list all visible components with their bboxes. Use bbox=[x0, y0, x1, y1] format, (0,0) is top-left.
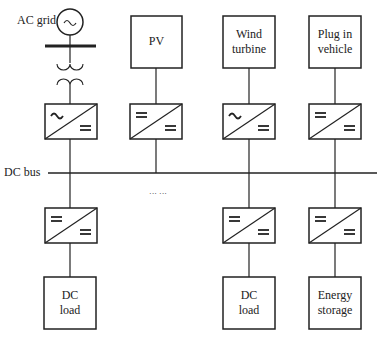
pv-label-line1: PV bbox=[149, 34, 164, 48]
grid-ac-dc-converter-icon bbox=[45, 104, 97, 139]
ev-label-line1: Plug in bbox=[309, 27, 361, 42]
energy-storage-label: Energy storage bbox=[309, 288, 361, 318]
wind-turbine-label: Wind turbine bbox=[223, 27, 275, 57]
load2-dc-dc-converter-icon bbox=[223, 208, 275, 243]
dc-load-2-label: DC load bbox=[223, 288, 275, 318]
ac-grid-label: AC grid bbox=[0, 13, 56, 28]
dc-bus-label: DC bus bbox=[4, 165, 46, 180]
ac-grid-column bbox=[44, 9, 97, 329]
transformer-icon bbox=[57, 64, 83, 85]
storage-line2: storage bbox=[309, 303, 361, 318]
ev-dc-dc-converter-icon bbox=[309, 104, 361, 139]
load1-dc-dc-converter-icon bbox=[45, 208, 97, 243]
pv-label: PV bbox=[131, 34, 182, 49]
dc-load-1-line1: DC bbox=[44, 288, 96, 303]
ev-label-line2: vehicle bbox=[309, 42, 361, 57]
wind-label-line2: turbine bbox=[223, 42, 275, 57]
pv-dc-dc-converter-icon bbox=[130, 104, 182, 139]
dc-load-1-line2: load bbox=[44, 303, 96, 318]
dc-load-2-line1: DC bbox=[223, 288, 275, 303]
plug-in-vehicle-label: Plug in vehicle bbox=[309, 27, 361, 57]
dc-load-2-line2: load bbox=[223, 303, 275, 318]
dc-load-1-label: DC load bbox=[44, 288, 96, 318]
wind-label-line1: Wind bbox=[223, 27, 275, 42]
ellipsis-label: ··· ··· bbox=[140, 186, 176, 201]
storage-line1: Energy bbox=[309, 288, 361, 303]
wind-ac-dc-converter-icon bbox=[223, 104, 275, 139]
storage-dc-dc-converter-icon bbox=[309, 208, 361, 243]
